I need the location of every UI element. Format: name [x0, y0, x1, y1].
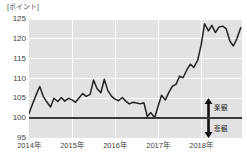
y-axis-tick-label: 125 [4, 15, 26, 23]
x-axis-tick-label: 2015年 [60, 141, 84, 150]
y-axis-tick-label: 120 [4, 35, 26, 43]
x-axis-tick-label: 2018年 [189, 141, 213, 150]
x-axis-tick-label: 2016年 [103, 141, 127, 150]
y-axis-tick-label: 100 [4, 114, 26, 122]
pessimistic-label: 悲観 [214, 125, 228, 132]
optimistic-annotation: 楽観 [204, 98, 228, 117]
pessimistic-annotation: 悲観 [204, 119, 228, 138]
y-axis-tick-label: 110 [4, 75, 26, 83]
sentiment-index-chart: [ポイント] 95100105110115120125 2014年2015年20… [0, 0, 247, 161]
x-axis-tick-label: 2014年 [17, 141, 41, 150]
arrow-up-icon [204, 98, 213, 117]
y-axis-tick-label: 105 [4, 94, 26, 102]
y-axis-tick-label: 115 [4, 55, 26, 63]
optimistic-label: 楽観 [214, 104, 228, 111]
arrow-down-icon [204, 119, 213, 138]
x-axis-tick-label: 2017年 [146, 141, 170, 150]
